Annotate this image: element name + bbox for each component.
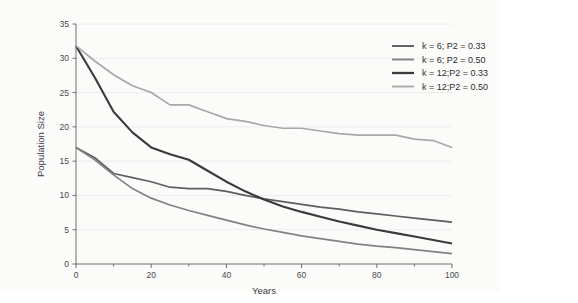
x-axis-label: Years (252, 285, 276, 296)
series-line-2 (76, 46, 452, 243)
series-line-0 (76, 147, 452, 222)
y-tick-label: 20 (60, 122, 70, 132)
legend-label-3: k = 12;P2 = 0.50 (422, 82, 488, 92)
population-decline-line-chart: 05101520253035 020406080100 Population S… (0, 0, 578, 303)
y-tick-label: 0 (64, 259, 69, 269)
tick-marks-group (73, 24, 453, 268)
y-tick-label: 5 (64, 225, 69, 235)
x-tick-label: 0 (74, 270, 79, 280)
y-tick-label: 15 (60, 156, 70, 166)
y-tick-label: 30 (60, 53, 70, 63)
series-lines-group (76, 46, 452, 254)
y-tick-label: 25 (60, 88, 70, 98)
chart-legend: k = 6; P2 = 0.33k = 6; P2 = 0.50k = 12;P… (392, 41, 488, 92)
y-axis-label: Population Size (35, 111, 46, 177)
legend-label-0: k = 6; P2 = 0.33 (422, 41, 486, 51)
x-tick-labels-group: 020406080100 (74, 270, 460, 280)
chart-page: 05101520253035 020406080100 Population S… (0, 0, 578, 303)
legend-label-2: k = 12;P2 = 0.33 (422, 68, 488, 78)
x-tick-label: 80 (372, 270, 382, 280)
y-tick-label: 35 (60, 19, 70, 29)
x-tick-label: 20 (146, 270, 156, 280)
x-tick-label: 60 (297, 270, 307, 280)
y-tick-labels-group: 05101520253035 (60, 19, 70, 269)
x-tick-label: 100 (445, 270, 459, 280)
y-tick-label: 10 (60, 190, 70, 200)
legend-label-1: k = 6; P2 = 0.50 (422, 55, 486, 65)
x-tick-label: 40 (222, 270, 232, 280)
